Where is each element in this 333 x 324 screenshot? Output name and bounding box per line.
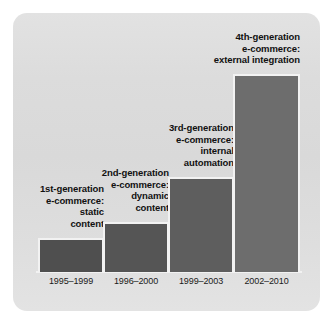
bar-1995-1999	[38, 238, 104, 272]
bar-chart-plot-area: 1st-generation e-commerce: static conten…	[0, 0, 333, 324]
bar-label-2002-2010: 4th-generation e-commerce: external inte…	[170, 31, 300, 66]
axis-label-1996-2000: 1996–2000	[101, 276, 171, 287]
bar-label-1996-2000: 2nd-generation e-commerce: dynamic conte…	[73, 167, 169, 213]
bar-1999-2003	[168, 177, 234, 272]
axis-label-1999-2003: 1999–2003	[166, 276, 236, 287]
axis-label-2002-2010: 2002–2010	[231, 276, 302, 287]
chart-figure: 1st-generation e-commerce: static conten…	[0, 0, 333, 324]
bar-1996-2000	[103, 222, 169, 272]
bar-2002-2010	[233, 74, 300, 272]
axis-label-1995-1999: 1995–1999	[36, 276, 106, 287]
bar-label-1999-2003: 3rd-generation e-commerce: internal auto…	[138, 122, 234, 168]
